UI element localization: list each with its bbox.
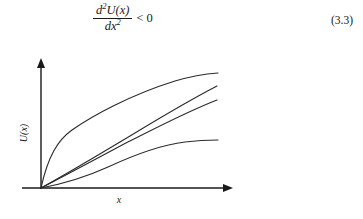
utility-curve-chart: U(x) x xyxy=(0,48,250,219)
curve-2-near-linear-concave xyxy=(41,86,217,188)
utility-curve-figure: U(x) x xyxy=(0,48,250,219)
y-axis xyxy=(37,58,45,189)
equation-number: (3.3) xyxy=(331,14,353,26)
curve-3-moderate-concave xyxy=(41,100,217,188)
fraction-numerator: d2U(x) xyxy=(93,4,132,18)
derivative-fraction: d2U(x) dx2 xyxy=(93,4,132,32)
y-axis-label: U(x) xyxy=(18,123,30,142)
x-axis-label: x xyxy=(116,194,122,205)
fraction-denominator: dx2 xyxy=(102,19,124,33)
equation-block: d2U(x) dx2 < 0 (3.3) xyxy=(0,0,363,44)
denominator-dx: dx xyxy=(105,19,117,33)
denominator-exponent: 2 xyxy=(116,16,120,26)
inequality-relation: < 0 xyxy=(136,11,152,25)
equation-3-3: d2U(x) dx2 < 0 xyxy=(93,4,153,32)
curve-4-flattening-saturating xyxy=(41,140,218,188)
curve-1-steep-concave xyxy=(41,73,218,188)
numerator-function: U(x) xyxy=(107,3,130,17)
